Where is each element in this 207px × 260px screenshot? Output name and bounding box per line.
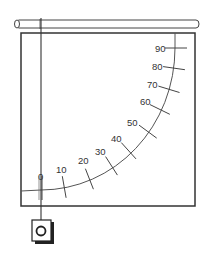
- tick-label: 50: [127, 117, 138, 128]
- tick-label: 70: [147, 79, 158, 90]
- inclinometer-diagram: 0102030405060708090: [0, 0, 207, 260]
- tick-label: 90: [155, 43, 166, 54]
- tick-label: 80: [152, 61, 163, 72]
- hanging-weight: [32, 220, 54, 244]
- horizontal-rod: [15, 19, 200, 29]
- tick-label: 40: [111, 133, 122, 144]
- tick-label: 10: [56, 164, 67, 175]
- tick-label: 20: [78, 155, 89, 166]
- tick-label: 60: [140, 96, 151, 107]
- protractor-board: [21, 33, 195, 206]
- tick-label: 30: [95, 146, 106, 157]
